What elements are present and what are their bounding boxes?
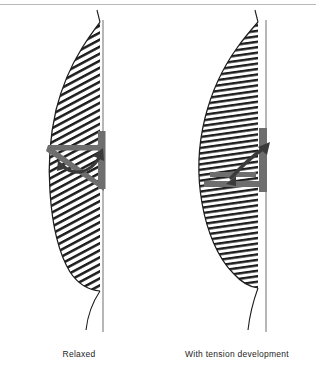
figure-page: Relaxed: [0, 0, 316, 382]
relaxed-muscle-illustration: [0, 0, 158, 345]
panel-caption-relaxed: Relaxed: [0, 349, 158, 359]
upper-tendon-curve: [97, 10, 100, 22]
lower-tendon-tail: [86, 291, 100, 330]
lower-tendon-tail: [248, 288, 258, 330]
panel-with-tension-development: With tension development: [158, 0, 316, 382]
panel-caption-with-tension-development: With tension development: [158, 349, 316, 359]
upper-tendon-curve: [255, 10, 258, 22]
tension-muscle-illustration: [158, 0, 316, 345]
fiber-axis-arm: [48, 145, 100, 151]
panel-relaxed: Relaxed: [0, 0, 158, 382]
